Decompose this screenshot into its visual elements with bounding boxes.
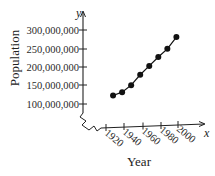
data-point (137, 72, 143, 78)
x-tick-label: 2000 (175, 123, 198, 145)
population-chart: y x 100,000,000 150,000,000 200,000,000 … (0, 0, 215, 176)
data-point (164, 46, 170, 52)
x-axis-variable: x (203, 126, 210, 140)
x-tick-label: 1920 (103, 127, 126, 149)
y-tick-label: 250,000,000 (27, 44, 80, 55)
y-tick-label: 300,000,000 (27, 25, 80, 36)
x-axis (101, 124, 204, 128)
x-tick-label: 1940 (121, 126, 144, 148)
data-point (110, 92, 116, 98)
data-point (173, 34, 179, 40)
y-tick-label: 200,000,000 (27, 62, 80, 73)
y-axis-variable: y (75, 6, 82, 20)
x-tick-label: 1960 (140, 125, 163, 147)
data-point (146, 63, 152, 69)
data-point (155, 54, 161, 60)
series-line (113, 37, 176, 95)
y-axis-title: Population (7, 29, 22, 86)
y-tick-label: 100,000,000 (27, 99, 80, 110)
data-point (119, 89, 125, 95)
y-tick-label: 150,000,000 (27, 80, 80, 91)
axis-break-icon (80, 113, 101, 131)
data-point (128, 82, 134, 88)
data-series (110, 34, 179, 98)
x-axis-title: Year (127, 154, 152, 169)
